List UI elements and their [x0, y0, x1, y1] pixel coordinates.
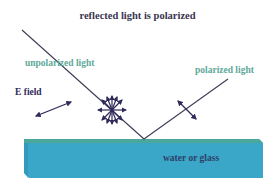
efield-label: E field [15, 87, 42, 97]
unpolarized-light-label: unpolarized light [25, 58, 94, 68]
efield-arrow-icon [36, 102, 71, 116]
incident-ray [22, 30, 144, 139]
unpolarized-starburst-icon [98, 96, 126, 124]
water-glass-slab [24, 139, 263, 178]
diagram-title: reflected light is polarized [0, 10, 275, 21]
medium-label: water or glass [163, 153, 219, 163]
polarized-light-label: polarized light [195, 65, 254, 75]
